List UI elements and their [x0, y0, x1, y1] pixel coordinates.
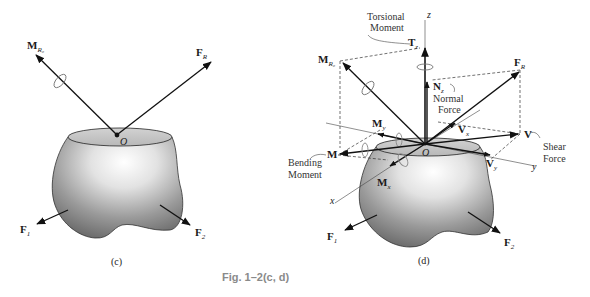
shear-label: V: [524, 128, 532, 140]
moment-y-label: My: [372, 117, 386, 132]
bending-moment-annotation-line1: Bending: [288, 157, 322, 168]
moment-rotation-icon: [362, 143, 368, 157]
force-resultant-label-c: FR: [196, 46, 208, 61]
panel-d: Tz MR₀ FR Nz Vx V Vy My M Mx F1 F2 z y x…: [288, 9, 566, 267]
body-shape-d: [359, 147, 493, 247]
torque-label: Tz: [408, 36, 418, 51]
moment-label: M: [327, 148, 338, 160]
figure-caption: Fig. 1–2(c, d): [222, 271, 290, 283]
y-axis-label: y: [531, 161, 537, 172]
shear-force-annotation-line1: Shear: [543, 141, 566, 152]
force-1-label-d: F1: [327, 230, 337, 245]
x-axis-label: x: [329, 195, 335, 206]
torsional-moment-label-line1: Torsional: [367, 11, 405, 22]
force-2-label-d: F2: [504, 236, 515, 251]
moment-rotation-icon-c: [52, 72, 68, 89]
force-1-label-c: F1: [20, 223, 30, 238]
origin-point-c: [115, 133, 120, 138]
force-resultant-label-d: FR: [514, 56, 526, 71]
normal-force-annotation-line1: Normal: [433, 93, 464, 104]
moment-resultant-arrow-c: [36, 55, 116, 134]
panel-c: O MR₀ FR F1 F2 (c): [20, 39, 211, 268]
figure-canvas: O MR₀ FR F1 F2 (c): [0, 0, 590, 297]
moment-resultant-label-d: MR₀: [318, 53, 336, 68]
panel-c-label: (c): [111, 256, 122, 268]
origin-point-d: [424, 143, 427, 146]
z-axis-label: z: [426, 9, 431, 20]
shear-x-label: Vx: [458, 123, 470, 138]
shear-force-annotation-line2: Force: [543, 153, 566, 164]
origin-label-c: O: [120, 136, 127, 147]
body-shape-c: [52, 137, 183, 238]
force-2-label-c: F2: [195, 226, 206, 241]
normal-force-annotation-line2: Force: [438, 104, 461, 115]
shear-y-label: Vy: [486, 157, 498, 172]
bending-moment-annotation-line2: Moment: [288, 169, 322, 180]
origin-label-d: O: [422, 147, 429, 158]
force-resultant-arrow-c: [118, 62, 211, 134]
panel-d-label: (d): [418, 255, 430, 267]
torsional-moment-label-line2: Moment: [370, 22, 404, 33]
moment-resultant-label-c: MR₀: [27, 39, 45, 54]
